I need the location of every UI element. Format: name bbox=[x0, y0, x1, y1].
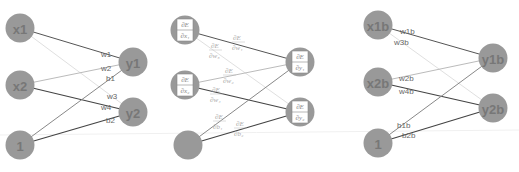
edge-dx2-dy1 bbox=[185, 62, 300, 85]
edge-label-w3b: w3b bbox=[393, 38, 409, 47]
svg-text:∂b₁: ∂b₁ bbox=[213, 123, 222, 131]
svg-text:∂w₄: ∂w₄ bbox=[210, 96, 221, 104]
edge-label-b1b: b1b bbox=[397, 121, 411, 130]
edge-bb-y2b bbox=[378, 108, 493, 143]
panel-forward: w1 w2 b1 w3 w4 b2 x1 x2 1 y1 y2 bbox=[6, 14, 148, 160]
edge-label-b1: b1 bbox=[106, 74, 115, 83]
svg-text:∂E: ∂E bbox=[212, 86, 220, 94]
edge-dx1-dy2 bbox=[185, 30, 300, 112]
node-label-bias: 1 bbox=[16, 139, 23, 154]
svg-text:∂w₃: ∂w₃ bbox=[209, 52, 220, 60]
edge-label-b2: b2 bbox=[106, 116, 115, 125]
node-label-y1b: y1b bbox=[482, 52, 504, 67]
svg-text:∂E: ∂E bbox=[296, 103, 304, 111]
edge-label-w3: w3 bbox=[106, 92, 118, 101]
svg-text:∂x₁: ∂x₁ bbox=[181, 32, 190, 40]
neural-network-diagram: w1 w2 b1 w3 w4 b2 x1 x2 1 y1 y2 ∂E ∂w₁ bbox=[0, 0, 519, 172]
node-dy1: ∂E ∂y₁ bbox=[286, 48, 315, 77]
node-label-y1: y1 bbox=[126, 56, 140, 71]
svg-text:∂E: ∂E bbox=[296, 53, 304, 61]
svg-text:∂E: ∂E bbox=[211, 42, 219, 50]
edge-label-b2b: b2b bbox=[402, 131, 416, 140]
svg-text:∂E: ∂E bbox=[233, 34, 241, 42]
edge-b-y1 bbox=[20, 62, 133, 145]
edge-label-w1: w1 bbox=[100, 50, 112, 59]
svg-text:∂E: ∂E bbox=[225, 67, 233, 75]
svg-text:∂w₁: ∂w₁ bbox=[232, 44, 243, 52]
svg-text:∂b₂: ∂b₂ bbox=[234, 130, 244, 138]
node-label-y2b: y2b bbox=[482, 102, 504, 117]
node-dx2: ∂E ∂x₂ bbox=[171, 71, 200, 100]
node-dx1: ∂E ∂x₁ bbox=[171, 16, 200, 45]
edge-label-w4b: w4b bbox=[398, 87, 414, 96]
edge-label-dw4: ∂E ∂w₄ bbox=[210, 86, 223, 104]
edge-label-w2: w2 bbox=[100, 64, 112, 73]
svg-text:∂E: ∂E bbox=[181, 76, 189, 84]
svg-text:∂E: ∂E bbox=[215, 113, 223, 121]
svg-text:∂E: ∂E bbox=[236, 120, 244, 128]
node-label-x1: x1 bbox=[13, 22, 27, 37]
panel-backward: w1b w3b w2b w4b b1b b2b x1b x2b 1 y1b y2… bbox=[364, 11, 508, 158]
node-label-x2: x2 bbox=[13, 79, 27, 94]
edge-b-y2 bbox=[20, 112, 133, 145]
node-dbias bbox=[174, 131, 203, 160]
edge-label-w1b: w1b bbox=[399, 27, 415, 36]
node-label-y2: y2 bbox=[126, 106, 140, 121]
node-label-x2b: x2b bbox=[367, 76, 389, 91]
svg-text:∂x₂: ∂x₂ bbox=[181, 87, 191, 95]
node-label-bias-b: 1 bbox=[374, 137, 381, 152]
edge-dx2-dy2 bbox=[185, 85, 300, 112]
svg-text:∂w₂: ∂w₂ bbox=[223, 77, 234, 85]
edge-db-dy2 bbox=[188, 112, 300, 145]
edge-x1-y1 bbox=[20, 28, 133, 62]
edge-x2b-y1b bbox=[378, 58, 493, 82]
svg-text:∂E: ∂E bbox=[181, 21, 189, 29]
panel-gradient: ∂E ∂w₁ ∂E ∂w₃ ∂E ∂w₂ ∂E ∂w₄ ∂E ∂b₁ ∂E ∂b… bbox=[171, 16, 315, 160]
svg-text:∂y₂: ∂y₂ bbox=[296, 114, 306, 122]
edge-label-w2b: w2b bbox=[398, 74, 414, 83]
edge-label-w4: w4 bbox=[100, 103, 112, 112]
edge-label-dw3: ∂E ∂w₃ bbox=[209, 42, 222, 60]
node-dy2: ∂E ∂y₂ bbox=[286, 98, 315, 127]
edge-label-dw1: ∂E ∂w₁ bbox=[232, 34, 245, 52]
svg-text:∂y₁: ∂y₁ bbox=[296, 64, 305, 72]
node-label-x1b: x1b bbox=[367, 19, 389, 34]
background-line bbox=[0, 130, 519, 135]
edge-x2-y1 bbox=[20, 62, 133, 85]
